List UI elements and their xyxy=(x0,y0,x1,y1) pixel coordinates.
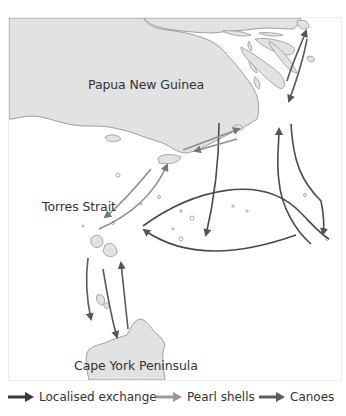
label-papua-new-guinea: Papua New Guinea xyxy=(88,77,204,92)
label-cape-york-peninsula: Cape York Peninsula xyxy=(74,358,198,373)
legend-label: Canoes xyxy=(290,390,334,404)
arrow-right-icon xyxy=(8,392,34,402)
legend-label: Pearl shells xyxy=(187,390,255,404)
arrow-right-icon xyxy=(259,392,285,402)
map-frame: Papua New Guinea Torres Strait Cape York… xyxy=(8,17,342,381)
legend-label: Localised exchange xyxy=(39,390,157,404)
legend-item-localised-exchange: Localised exchange xyxy=(8,390,157,404)
legend-item-canoes: Canoes xyxy=(259,390,334,404)
legend-item-pearl-shells: Pearl shells xyxy=(156,390,255,404)
arrow-right-icon xyxy=(156,392,182,402)
label-torres-strait: Torres Strait xyxy=(42,199,116,214)
legend: Localised exchange Pearl shells Canoes xyxy=(0,390,346,410)
